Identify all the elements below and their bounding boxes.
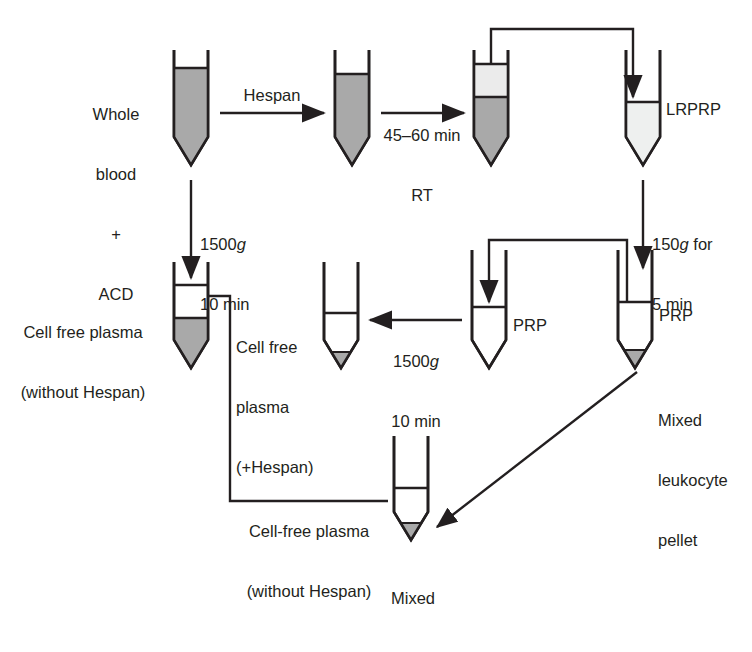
label-spin-150g: 150g for 5 min [652, 194, 713, 354]
diagram-canvas: Whole blood + ACD Hespan 45–60 min RT LR… [0, 0, 752, 652]
label-mixed-leukocyte-pellet-bottom: Mixed leukocyte pellet [361, 548, 465, 652]
value-1500: 1500 [200, 235, 237, 253]
label-cfp-left-line2: (without Hespan) [2, 382, 164, 402]
label-mlp-bottom-line2: leukocyte [361, 648, 465, 652]
label-whole-blood-line3: + [66, 224, 166, 244]
suffix-for: for [689, 235, 713, 253]
label-hespan: Hespan [222, 85, 322, 105]
label-mlp-right-line3: pellet [658, 530, 728, 550]
value-1500: 1500 [393, 352, 430, 370]
label-incubation: 45–60 min RT [374, 85, 470, 245]
label-cfp-hespan-line3: (+Hespan) [236, 457, 314, 477]
label-spin-1500g-mid-line1: 1500g [368, 351, 464, 371]
tube-hespan-added [335, 50, 369, 165]
label-incubation-line2: RT [374, 185, 470, 205]
tube-whole-blood [174, 50, 208, 165]
label-prp-right: PRP [659, 305, 693, 325]
label-mixed-leukocyte-pellet-right: Mixed leukocyte pellet [658, 370, 728, 590]
unit-g: g [430, 352, 439, 370]
label-mlp-bottom-line1: Mixed [361, 588, 465, 608]
label-cfp-hespan-line1: Cell free [236, 337, 314, 357]
unit-g: g [237, 235, 246, 253]
unit-g: g [680, 235, 689, 253]
label-mlp-right-line1: Mixed [658, 410, 728, 430]
tube-sedimented [474, 50, 508, 165]
tube-prp-left-result [324, 262, 358, 368]
label-spin-1500g-mid: 1500g 10 min [368, 311, 464, 471]
label-spin-1500g-left-line1: 1500g [200, 234, 250, 254]
label-cell-free-plasma-without-hespan-left: Cell free plasma (without Hespan) [2, 282, 164, 442]
connector-prp-transfer [489, 240, 627, 302]
label-spin-1500g-mid-line2: 10 min [368, 411, 464, 431]
label-whole-blood-line1: Whole [66, 104, 166, 124]
label-whole-blood-line2: blood [66, 164, 166, 184]
tube-prp-right [618, 250, 652, 368]
label-spin-150g-line1: 150g for [652, 234, 713, 254]
label-cfp-hespan-line2: plasma [236, 397, 314, 417]
value-150: 150 [652, 235, 680, 253]
label-prp-mid: PRP [513, 315, 547, 335]
connector-lrprp-transfer [491, 29, 633, 64]
label-cfp-bottom-line1: Cell-free plasma [228, 521, 390, 541]
label-incubation-line1: 45–60 min [374, 125, 470, 145]
label-cfp-left-line1: Cell free plasma [2, 322, 164, 342]
arrow-pellet-to-bottom-tube [437, 372, 637, 527]
tube-lrprp [626, 50, 660, 165]
label-lrprp: LRPRP [666, 99, 721, 119]
label-mlp-right-line2: leukocyte [658, 470, 728, 490]
